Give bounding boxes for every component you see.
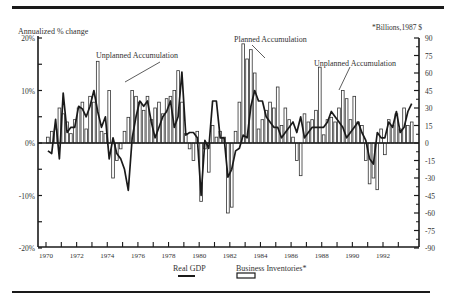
inventory-bar <box>230 143 233 207</box>
left-tick-label: -20% <box>19 244 35 253</box>
inventory-bar <box>330 117 333 143</box>
inventory-bar <box>288 120 291 143</box>
x-tick-label: 1972 <box>70 252 85 260</box>
inventory-bar <box>384 143 387 155</box>
inventory-bar <box>85 129 88 143</box>
inventory-bar <box>253 73 256 143</box>
inventory-bar <box>242 44 245 143</box>
inventory-bar <box>211 126 214 144</box>
annotation-leader-2 <box>252 45 265 58</box>
x-tick-label: 1976 <box>131 252 146 260</box>
inventory-bar <box>322 135 325 143</box>
inventory-bar <box>188 143 191 149</box>
inventory-bar <box>311 120 314 143</box>
inventory-bar <box>100 131 103 143</box>
right-tick-label: 45 <box>425 87 433 96</box>
annotation-leader-1 <box>125 62 160 82</box>
inventory-bar <box>292 137 295 143</box>
inventory-bar <box>257 129 260 143</box>
right-tick-label: -60 <box>425 209 435 218</box>
inventory-bar <box>368 143 371 184</box>
inventory-bar <box>93 102 96 143</box>
x-tick-label: 1984 <box>253 252 268 260</box>
inventory-bar <box>181 102 184 143</box>
inventory-bar <box>234 131 237 143</box>
legend-inventories-swatch <box>237 273 255 278</box>
inventory-bar <box>112 143 115 178</box>
inventory-bar <box>284 108 287 143</box>
inventory-bar <box>334 122 337 143</box>
inventory-bar <box>353 96 356 143</box>
inventory-bar <box>119 143 122 149</box>
inventory-bar <box>142 110 145 143</box>
inventory-bar <box>299 143 302 176</box>
left-tick-label: -10% <box>19 192 35 201</box>
right-tick-label: -15 <box>425 157 435 166</box>
inventory-bar <box>165 99 168 143</box>
x-tick-label: 1978 <box>162 252 177 260</box>
right-tick-label: 15 <box>425 122 433 131</box>
inventory-bar <box>192 143 195 161</box>
inventory-bar <box>295 143 298 161</box>
inventory-bar <box>238 102 241 143</box>
x-tick-label: 1992 <box>376 252 391 260</box>
inventory-bar <box>410 122 413 143</box>
x-tick-label: 1974 <box>100 252 115 260</box>
right-tick-label: -30 <box>425 174 435 183</box>
right-tick-label: -45 <box>425 192 435 201</box>
inventory-bar <box>70 134 73 143</box>
left-tick-label: 10% <box>21 87 35 96</box>
x-tick-label: 1982 <box>223 252 238 260</box>
right-tick-label: -90 <box>425 244 435 253</box>
right-tick-label: 90 <box>425 34 433 43</box>
right-tick-label: 0 <box>425 139 429 148</box>
inventory-bar <box>127 117 130 143</box>
inventory-bar <box>250 50 253 143</box>
inventory-bar <box>47 137 50 143</box>
inventory-bar <box>261 120 264 143</box>
inventory-bar <box>227 143 230 213</box>
inventory-bar <box>123 131 126 143</box>
annotation-leader-3 <box>339 67 350 90</box>
x-tick-label: 1980 <box>192 252 207 260</box>
left-tick-label: 0% <box>25 139 35 148</box>
inventory-bar <box>341 91 344 144</box>
inventory-bar <box>407 126 410 144</box>
x-tick-label: 1988 <box>315 252 330 260</box>
inventory-bar <box>215 137 218 143</box>
x-tick-label: 1990 <box>345 252 360 260</box>
inventory-bar <box>108 91 111 144</box>
right-tick-label: 30 <box>425 104 433 113</box>
right-tick-label: 60 <box>425 69 433 78</box>
inventory-bar <box>318 67 321 143</box>
chart-svg: 20%10%0%-10%-20%9075604530150-15-30-45-6… <box>0 0 454 302</box>
left-tick-label: 20% <box>21 34 35 43</box>
inventory-bar <box>338 108 341 143</box>
inventory-bar <box>276 87 279 143</box>
x-tick-label: 1986 <box>284 252 299 260</box>
right-tick-label: -75 <box>425 227 435 236</box>
right-tick-label: 75 <box>425 52 433 61</box>
inventory-bar <box>376 143 379 190</box>
x-tick-label: 1970 <box>39 252 54 260</box>
